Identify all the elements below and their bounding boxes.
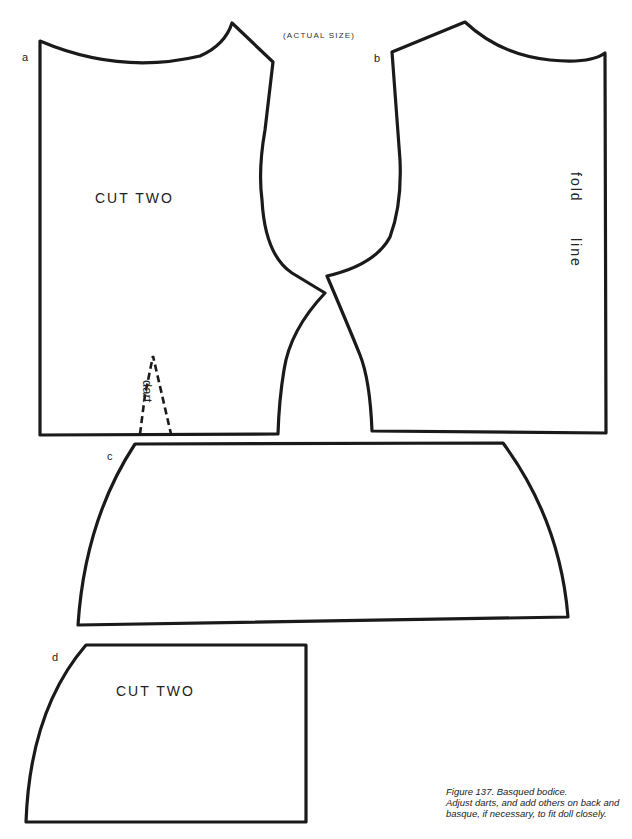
caption-line-1: Adjust darts, and add others on back and bbox=[446, 797, 626, 808]
piece-d-instruction: CUT TWO bbox=[116, 683, 195, 699]
pattern-outlines bbox=[0, 0, 632, 839]
caption-line-2: basque, if necessary, to fit doll closel… bbox=[446, 808, 626, 819]
figure-caption: Figure 137. Basqued bodice. Adjust darts… bbox=[446, 786, 626, 819]
piece-a-outline bbox=[40, 23, 325, 435]
piece-d-outline bbox=[26, 645, 306, 822]
piece-d-label: d bbox=[52, 651, 58, 663]
piece-a-label: a bbox=[22, 51, 28, 63]
caption-title: Figure 137. Basqued bodice. bbox=[446, 786, 626, 797]
piece-a-instruction: CUT TWO bbox=[95, 190, 174, 206]
piece-c-label: c bbox=[107, 450, 113, 462]
piece-b-label: b bbox=[374, 52, 380, 64]
actual-size-heading: (ACTUAL SIZE) bbox=[283, 31, 355, 40]
fold-label: fold bbox=[568, 172, 584, 203]
dart-label: dart bbox=[140, 380, 155, 402]
line-label: line bbox=[568, 238, 584, 268]
piece-c-outline bbox=[78, 443, 568, 625]
piece-b-outline bbox=[327, 22, 606, 433]
